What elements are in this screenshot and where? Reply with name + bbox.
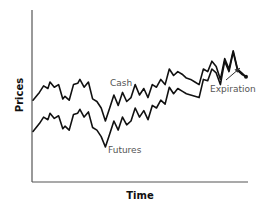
futures-series-line: [33, 52, 246, 147]
expiration-point: [244, 75, 248, 79]
y-axis-label: Prices: [14, 78, 25, 112]
x-axis-label: Time: [126, 190, 154, 201]
basis-convergence-chart: Cash Futures Expiration Prices Time: [0, 0, 263, 207]
cash-label: Cash: [110, 78, 132, 88]
futures-label: Futures: [108, 145, 142, 155]
expiration-label: Expiration: [210, 84, 256, 94]
